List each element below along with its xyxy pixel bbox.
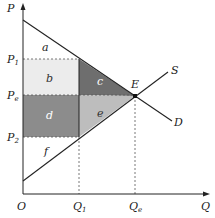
p2-label: P2 — [6, 131, 19, 145]
qe-label: Qe — [129, 200, 142, 214]
pe-label: Pe — [6, 89, 19, 103]
p1-label: P1 — [6, 53, 19, 67]
x-axis-label: Q — [201, 200, 210, 213]
supply-demand-diagram: P Q O P1 Pe P2 Q1 Qe S D E a b c d e f — [0, 0, 215, 218]
region-c-label: c — [97, 75, 103, 88]
origin-label: O — [17, 200, 26, 213]
region-d-label: d — [46, 109, 53, 122]
equilibrium-point — [133, 94, 137, 98]
region-b-label: b — [46, 72, 53, 85]
supply-label: S — [171, 64, 179, 77]
region-a-label: a — [42, 41, 49, 54]
y-axis-label: P — [6, 2, 15, 15]
q1-label: Q1 — [73, 200, 87, 214]
region-e-label: e — [97, 107, 104, 120]
y-axis-arrow-icon — [21, 3, 26, 10]
region-f-label: f — [43, 145, 50, 158]
demand-label: D — [173, 116, 183, 129]
region-e — [79, 95, 135, 137]
x-axis-arrow-icon — [203, 192, 210, 197]
equilibrium-label: E — [130, 78, 139, 91]
